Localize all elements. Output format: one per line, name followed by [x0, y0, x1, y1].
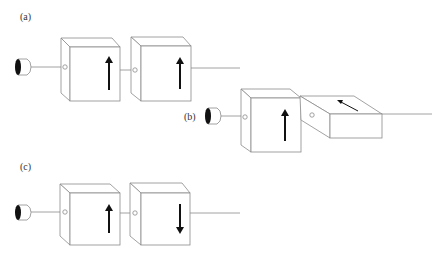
panel-label-c: (c) — [20, 161, 31, 173]
polarizer-box-b1 — [241, 89, 301, 152]
panel-a: (a) — [15, 11, 240, 101]
aperture — [243, 115, 247, 119]
eye-icon — [15, 59, 31, 75]
polarizer-box-c1 — [60, 184, 120, 245]
panel-c: (c) — [15, 161, 240, 245]
aperture — [63, 65, 67, 69]
polarizer-box-a1 — [61, 38, 120, 101]
aperture — [133, 68, 137, 72]
panel-b: (b) — [184, 89, 432, 152]
polarizer-box-a2 — [131, 37, 191, 101]
diagram-canvas: (a) (b) — [0, 0, 448, 258]
aperture — [310, 113, 314, 117]
aperture — [133, 211, 137, 215]
panel-label-a: (a) — [20, 11, 31, 23]
aperture — [63, 210, 67, 214]
eye-icon — [15, 205, 31, 220]
panel-label-b: (b) — [184, 111, 196, 123]
eye-icon — [205, 108, 221, 124]
